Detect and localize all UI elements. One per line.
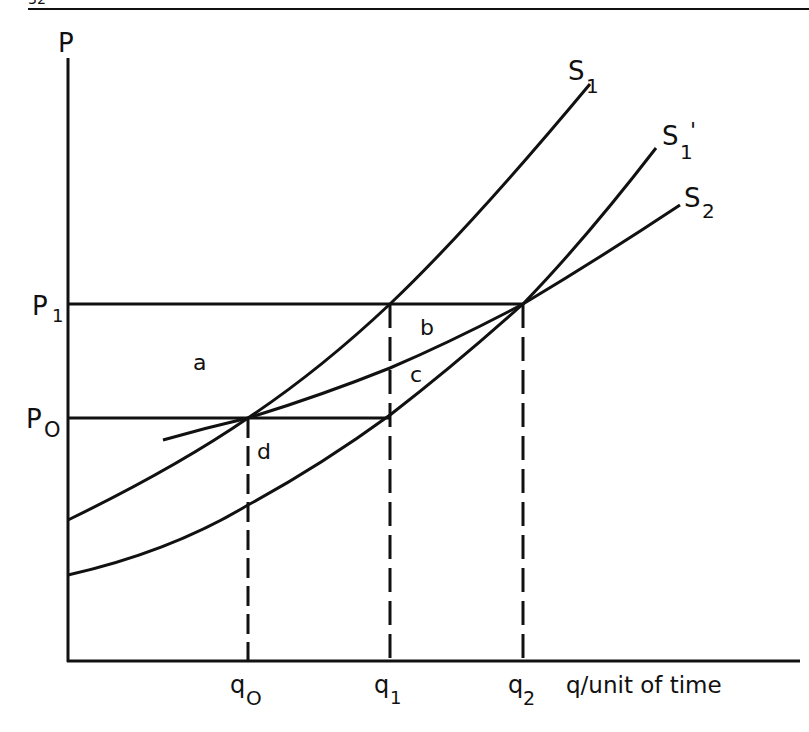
svg-text:1: 1 [52, 305, 63, 326]
svg-text:q: q [374, 671, 389, 699]
svg-text:O: O [44, 418, 61, 442]
svg-text:S: S [568, 56, 585, 86]
svg-text:2: 2 [523, 687, 535, 709]
s2-label: S 2 [684, 183, 715, 223]
region-b-label: b [420, 315, 434, 340]
supply-curves-diagram: 32 P q/unit of time P 1 P O q O q 1 q 2 … [0, 0, 809, 732]
region-a-label: a [193, 350, 206, 375]
p0-label: P O [26, 404, 61, 442]
svg-text:1: 1 [390, 687, 401, 708]
svg-text:S: S [662, 121, 679, 151]
svg-text:S: S [684, 183, 701, 213]
svg-text:': ' [690, 118, 696, 143]
q0-label: q O [230, 671, 262, 710]
svg-text:O: O [246, 686, 262, 710]
svg-text:1: 1 [586, 74, 599, 98]
svg-text:q: q [508, 671, 523, 699]
svg-text:1: 1 [680, 140, 693, 164]
svg-text:q: q [230, 671, 245, 699]
svg-text:P: P [32, 291, 48, 321]
svg-text:P: P [26, 404, 42, 434]
s1-curve [68, 84, 590, 520]
svg-text:2: 2 [702, 199, 715, 223]
s1prime-label: S 1 ' [662, 118, 696, 164]
x-axis-label: q/unit of time [566, 672, 722, 698]
page-number: 32 [28, 0, 46, 7]
region-d-label: d [257, 439, 271, 464]
q2-label: q 2 [508, 671, 535, 709]
s1prime-curve [68, 148, 656, 575]
region-c-label: c [410, 362, 422, 387]
q1-label: q 1 [374, 671, 401, 708]
p1-label: P 1 [32, 291, 63, 326]
y-axis-label: P [58, 28, 74, 58]
